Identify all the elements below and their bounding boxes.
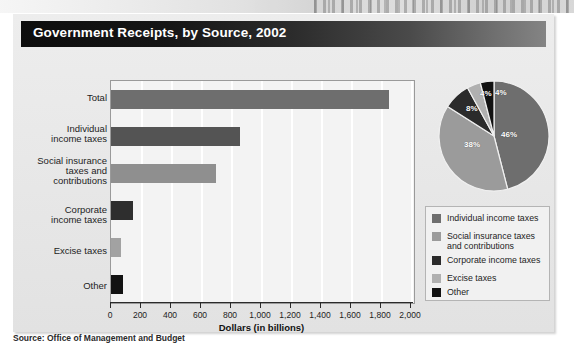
x-axis-tick-label: 1,400 xyxy=(304,310,336,320)
legend-item: Corporate income taxes xyxy=(432,255,540,265)
x-axis-tick xyxy=(290,302,291,308)
x-axis-tick xyxy=(110,302,111,308)
x-axis-tick xyxy=(260,302,261,308)
ylabel-total: Total xyxy=(27,93,107,104)
title-bar: Government Receipts, by Source, 2002 xyxy=(21,21,546,47)
bar-series xyxy=(111,81,414,303)
x-axis-tick-label: 200 xyxy=(124,310,156,320)
x-axis-tick-label: 1,200 xyxy=(274,310,306,320)
legend-label: Corporate income taxes xyxy=(447,255,540,265)
ylabel-excise: Excise taxes xyxy=(27,246,107,257)
ylabel-other: Other xyxy=(27,281,107,292)
x-axis-tick xyxy=(320,302,321,308)
legend-item: Excise taxes xyxy=(432,273,496,283)
legend-swatch xyxy=(432,232,441,241)
x-axis-tick-labels: 02004006008001,0001,2001,4001,6001,8002,… xyxy=(110,310,413,322)
bar xyxy=(111,90,389,109)
legend-item: Other xyxy=(432,287,469,297)
legend-swatch xyxy=(432,214,441,223)
legend-item: Social insurance taxesand contributions xyxy=(432,231,535,251)
x-axis-tick-label: 600 xyxy=(184,310,216,320)
bar-category-labels: Total Individual income taxes Social ins… xyxy=(27,80,107,302)
pie-label-individual: 46% xyxy=(501,130,517,139)
chart-legend: Individual income taxesSocial insurance … xyxy=(425,206,550,301)
page-title: Government Receipts, by Source, 2002 xyxy=(33,25,286,40)
pie-label-excise: 4% xyxy=(480,89,492,98)
bar xyxy=(111,201,133,220)
source-note: Source: Office of Management and Budget xyxy=(13,333,185,343)
pie-chart: 46% 38% 8% 4% 4% xyxy=(438,80,550,192)
bar xyxy=(111,164,216,183)
ylabel-social-line3: contributions xyxy=(27,176,107,187)
legend-label: Excise taxes xyxy=(447,273,496,283)
x-axis-title: Dollars (in billions) xyxy=(110,322,413,333)
ylabel-corporate-line2: income taxes xyxy=(27,215,107,226)
legend-swatch xyxy=(432,274,441,283)
x-axis-tick xyxy=(410,302,411,308)
x-axis-tick-label: 400 xyxy=(154,310,186,320)
legend-swatch xyxy=(432,256,441,265)
x-axis-tick xyxy=(230,302,231,308)
x-axis-tick-label: 1,800 xyxy=(364,310,396,320)
legend-label: Social insurance taxesand contributions xyxy=(447,231,535,251)
pie-label-corporate: 8% xyxy=(466,104,478,113)
pie-chart-svg xyxy=(438,80,550,192)
x-axis-line xyxy=(110,302,413,303)
bar xyxy=(111,238,121,257)
legend-label: Other xyxy=(447,287,469,297)
scan-artifact-strip xyxy=(0,0,574,13)
x-axis-tick-label: 2,000 xyxy=(394,310,426,320)
bar-chart-plot-area xyxy=(110,80,415,304)
scan-artifact-flecks xyxy=(314,0,574,13)
pie-label-social: 38% xyxy=(464,140,480,149)
x-axis-tick-label: 1,000 xyxy=(244,310,276,320)
legend-item: Individual income taxes xyxy=(432,213,538,223)
legend-swatch xyxy=(432,288,441,297)
ylabel-individual-line2: income taxes xyxy=(27,134,107,145)
pie-label-other: 4% xyxy=(495,88,507,97)
chart-page: Government Receipts, by Source, 2002 Tot… xyxy=(0,0,574,349)
x-axis-tick xyxy=(170,302,171,308)
chart-card: Government Receipts, by Source, 2002 Tot… xyxy=(13,14,554,332)
x-axis-tick-label: 0 xyxy=(94,310,126,320)
x-axis xyxy=(110,302,413,309)
x-axis-tick xyxy=(200,302,201,308)
x-axis-tick-label: 800 xyxy=(214,310,246,320)
x-axis-tick xyxy=(380,302,381,308)
x-axis-tick-label: 1,600 xyxy=(334,310,366,320)
bar xyxy=(111,127,240,146)
bar xyxy=(111,275,123,294)
x-axis-tick xyxy=(350,302,351,308)
x-axis-tick xyxy=(140,302,141,308)
legend-label: Individual income taxes xyxy=(447,213,538,223)
